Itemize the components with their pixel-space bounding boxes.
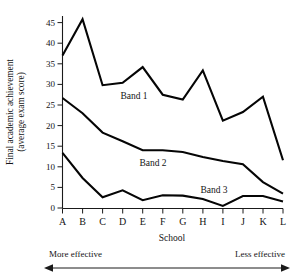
x-tick-label-L: L — [280, 216, 286, 227]
series-group — [63, 19, 284, 206]
x-tick-label-E: E — [140, 216, 146, 227]
y-tick-label-15: 15 — [46, 141, 56, 151]
arrow-head-right-icon — [281, 264, 290, 272]
y-axis-label: Final academic achievement (average exam… — [5, 59, 27, 165]
y-tick-label-10: 10 — [46, 162, 56, 172]
x-tick-label-G: G — [179, 216, 186, 227]
y-axis-label-line2: (average exam score) — [16, 72, 27, 152]
y-tick-label-30: 30 — [46, 79, 56, 89]
effectiveness-annotations: More effective Less effective — [49, 249, 285, 259]
line-chart: Final academic achievement (average exam… — [0, 0, 291, 278]
y-tick-label-20: 20 — [46, 121, 56, 131]
y-tick-label-5: 5 — [51, 182, 56, 192]
y-tick-label-45: 45 — [46, 18, 56, 28]
x-tick-label-C: C — [99, 216, 106, 227]
series-label-band-2: Band 2 — [139, 158, 166, 168]
y-tick-label-0: 0 — [51, 203, 56, 213]
y-tick-labels: 0 5 10 15 20 25 30 35 40 45 — [46, 18, 56, 213]
x-axis — [63, 209, 284, 214]
arrow-head-left-icon — [44, 264, 53, 272]
x-tick-label-H: H — [199, 216, 206, 227]
y-tick-label-25: 25 — [46, 100, 56, 110]
x-tick-label-K: K — [259, 216, 267, 227]
x-tick-label-A: A — [59, 216, 67, 227]
x-tick-label-I: I — [221, 216, 224, 227]
x-tick-label-D: D — [119, 216, 126, 227]
x-tick-labels: A B C D E F G H I J K L — [59, 216, 286, 227]
y-axis-label-line1: Final academic achievement — [5, 59, 15, 165]
series-line-band-3 — [63, 153, 284, 206]
x-tick-label-J: J — [241, 216, 245, 227]
x-tick-label-B: B — [79, 216, 86, 227]
y-tick-label-40: 40 — [46, 38, 56, 48]
chart-figure: Final academic achievement (average exam… — [0, 0, 291, 278]
series-line-band-1 — [63, 19, 284, 160]
y-tick-label-35: 35 — [46, 59, 56, 69]
x-tick-label-F: F — [160, 216, 166, 227]
x-axis-title: School — [159, 233, 186, 243]
annotation-more-effective: More effective — [49, 249, 102, 259]
annotation-less-effective: Less effective — [235, 249, 285, 259]
y-axis — [58, 16, 63, 209]
series-label-band-1: Band 1 — [120, 91, 147, 101]
series-line-band-2 — [63, 98, 284, 194]
series-labels: Band 1 Band 2 Band 3 — [120, 91, 227, 195]
effectiveness-arrow — [44, 264, 290, 272]
series-label-band-3: Band 3 — [200, 185, 227, 195]
